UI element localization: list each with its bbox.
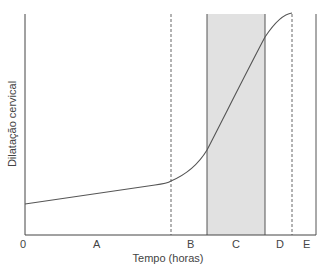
chart-canvas: 0 A B C D E Tempo (horas) Dilatação cerv… — [0, 0, 328, 269]
x-axis-title: Tempo (horas) — [133, 252, 204, 264]
phase-c-label: C — [232, 238, 240, 250]
phase-d-label: D — [276, 238, 284, 250]
phase-e-label: E — [303, 238, 310, 250]
phase-b-label: B — [187, 238, 194, 250]
phase-c-shaded-region — [207, 14, 265, 235]
phase-a-label: A — [93, 238, 101, 250]
y-axis-title: Dilatação cervical — [6, 81, 18, 167]
origin-label: 0 — [20, 238, 26, 250]
